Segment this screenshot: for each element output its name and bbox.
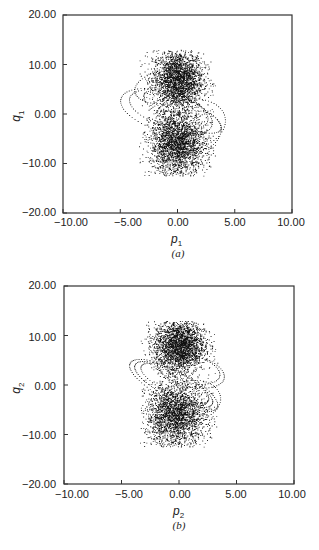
panel-caption: (a) — [158, 247, 198, 259]
x-tick-label: 10.00 — [266, 216, 316, 228]
y-tick-label: −10.00 — [0, 429, 56, 441]
y-tick-label: −10.00 — [0, 157, 56, 169]
x-tick-label: 0.00 — [153, 216, 203, 228]
x-axis-title: p2 — [173, 504, 184, 520]
x-tick-label: 5.00 — [211, 488, 261, 500]
data-points — [129, 321, 225, 447]
y-axis-title: q1 — [9, 111, 25, 122]
x-tick-label: −5.00 — [104, 488, 154, 500]
x-tick-label: −5.00 — [103, 216, 153, 228]
plot-panel-a: 20.00 10.00 0.00 −10.00 −20.00 −10.00 −5… — [0, 0, 319, 265]
x-axis-title: p1 — [171, 232, 182, 248]
y-axis-title: q2 — [9, 383, 25, 394]
x-tick-label: 5.00 — [210, 216, 260, 228]
x-tick-label: 10.00 — [267, 488, 317, 500]
x-tick-label: −10.00 — [46, 216, 96, 228]
y-tick-label: 20.00 — [0, 8, 56, 20]
y-tick-label: 10.00 — [0, 59, 56, 71]
plot-frame — [64, 286, 294, 484]
y-tick-label: 20.00 — [0, 279, 56, 291]
y-tick-label: 10.00 — [0, 331, 56, 343]
x-tick-label: 0.00 — [155, 488, 205, 500]
panel-caption: (b) — [159, 519, 199, 531]
data-points — [120, 50, 226, 177]
plot-panel-b: 20.00 10.00 0.00 −10.00 −20.00 −10.00 −5… — [0, 271, 319, 536]
x-tick-label: −10.00 — [47, 488, 97, 500]
